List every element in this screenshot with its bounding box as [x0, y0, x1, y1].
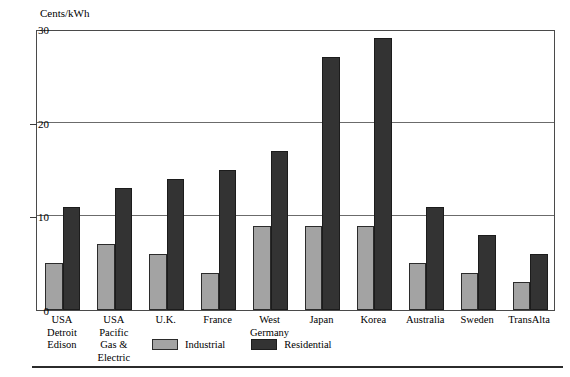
category-label-line: Gas &: [84, 339, 144, 352]
x-tick-mark: [62, 303, 63, 310]
x-axis-category-label: Korea: [343, 314, 403, 327]
bottom-divider: [32, 366, 563, 368]
x-tick-mark: [477, 303, 478, 310]
bar-group: [253, 31, 288, 310]
x-tick-mark: [114, 303, 115, 310]
bar-group: [513, 31, 548, 310]
category-label-line: France: [188, 314, 248, 327]
bar-residential: [530, 254, 548, 310]
bar-group: [461, 31, 496, 310]
bar-group: [305, 31, 340, 310]
x-axis-category-label: WestGermany: [240, 314, 300, 339]
x-axis-category-label: France: [188, 314, 248, 327]
x-tick-mark: [373, 303, 374, 310]
bar-industrial: [461, 273, 479, 310]
legend-label: Residential: [284, 339, 331, 350]
y-tick-mark-10: [30, 217, 37, 218]
legend-item-residential: Residential: [251, 339, 331, 350]
bar-group: [149, 31, 184, 310]
category-label-line: West: [240, 314, 300, 327]
bar-group: [357, 31, 392, 310]
bar-group: [45, 31, 80, 310]
bar-industrial: [305, 226, 323, 310]
bar-industrial: [45, 263, 63, 310]
category-label-line: Germany: [240, 327, 300, 340]
x-tick-mark: [425, 303, 426, 310]
bar-residential: [322, 57, 340, 310]
x-axis-category-label: USAPacificGas &Electric: [84, 314, 144, 364]
x-axis-category-label: TransAlta: [499, 314, 559, 327]
bar-industrial: [201, 273, 219, 310]
bar-residential: [167, 179, 185, 310]
x-tick-mark: [529, 303, 530, 310]
bar-industrial: [253, 226, 271, 310]
bar-residential: [271, 151, 289, 310]
x-tick-mark: [321, 303, 322, 310]
category-label-line: Sweden: [447, 314, 507, 327]
x-tick-mark: [166, 303, 167, 310]
category-label-line: Electric: [84, 352, 144, 365]
bar-industrial: [357, 226, 375, 310]
bar-industrial: [513, 282, 531, 310]
bar-group: [201, 31, 236, 310]
bar-group: [409, 31, 444, 310]
legend-swatch-industrial: [152, 339, 178, 350]
bar-residential: [374, 38, 392, 310]
x-axis-category-label: Sweden: [447, 314, 507, 327]
x-tick-mark: [270, 303, 271, 310]
plot-area: [36, 30, 555, 311]
x-tick-mark: [218, 303, 219, 310]
legend-item-industrial: Industrial: [152, 339, 225, 350]
bar-residential: [219, 170, 237, 311]
y-axis-title: Cents/kWh: [40, 7, 90, 19]
bar-residential: [426, 207, 444, 310]
bar-industrial: [97, 244, 115, 310]
chart-legend: IndustrialResidential: [152, 339, 332, 350]
legend-swatch-residential: [251, 339, 277, 350]
chart-figure: Cents/kWh 0102030 USADetroitEdisonUSAPac…: [0, 0, 570, 377]
legend-label: Industrial: [185, 339, 225, 350]
bar-residential: [63, 207, 81, 310]
bar-industrial: [149, 254, 167, 310]
category-label-line: Pacific: [84, 327, 144, 340]
bar-residential: [478, 235, 496, 310]
bar-industrial: [409, 263, 427, 310]
bar-group: [97, 31, 132, 310]
category-label-line: TransAlta: [499, 314, 559, 327]
bar-residential: [115, 188, 133, 310]
y-tick-mark-20: [30, 124, 37, 125]
category-label-line: USA: [84, 314, 144, 327]
y-tick-label-30: 30: [23, 25, 49, 36]
category-label-line: Korea: [343, 314, 403, 327]
